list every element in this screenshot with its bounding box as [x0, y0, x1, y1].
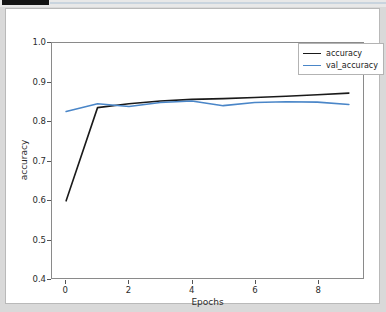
legend-label: val_accuracy	[326, 61, 378, 70]
top-strip-dark-segment	[2, 0, 49, 5]
x-tick-label: 6	[240, 285, 270, 295]
legend-label: accuracy	[326, 49, 362, 58]
series-line-accuracy	[66, 93, 349, 201]
top-ui-strip	[0, 0, 386, 7]
x-tick-mark	[318, 280, 319, 284]
x-tick-mark	[192, 280, 193, 284]
legend-item: accuracy	[303, 47, 378, 59]
x-tick-mark	[128, 280, 129, 284]
x-tick-mark	[65, 280, 66, 284]
figure-card: accuracy 0.40.50.60.70.80.91.0 02468 Epo…	[5, 8, 380, 304]
x-tick-label: 0	[50, 285, 80, 295]
top-strip-divider	[50, 2, 386, 4]
x-axis-ticks: 02468	[51, 280, 364, 298]
x-tick-label: 8	[303, 285, 333, 295]
y-axis-tick-marks	[6, 42, 52, 279]
plot-lines	[52, 43, 363, 278]
plot-area	[51, 42, 364, 279]
legend-item: val_accuracy	[303, 59, 378, 71]
legend-line-swatch	[303, 53, 321, 54]
x-tick-label: 4	[177, 285, 207, 295]
chart-legend: accuracyval_accuracy	[298, 43, 384, 75]
x-tick-label: 2	[113, 285, 143, 295]
x-axis-label: Epochs	[51, 297, 364, 307]
legend-line-swatch	[303, 65, 321, 66]
x-tick-mark	[255, 280, 256, 284]
